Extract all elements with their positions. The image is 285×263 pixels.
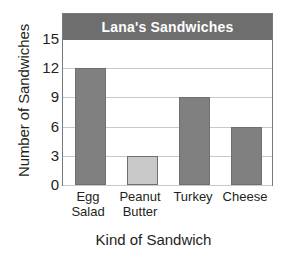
bar <box>127 156 158 185</box>
bar <box>179 97 210 185</box>
chart-title: Lana's Sandwiches <box>63 14 272 40</box>
plot-area: Lana's Sandwiches <box>62 13 273 186</box>
x-axis-tick-label: Cheese <box>219 189 271 204</box>
x-axis-tick-label: EggSalad <box>62 189 114 219</box>
bar-chart: Number of Sandwiches 03691215 Lana's San… <box>0 0 285 263</box>
x-axis-title: Kind of Sandwich <box>0 231 285 248</box>
y-axis-tick-labels: 03691215 <box>33 13 59 186</box>
bar <box>75 68 106 185</box>
x-axis-tick-label: Turkey <box>167 189 219 204</box>
x-axis-tick-label-line: Egg <box>62 189 114 204</box>
y-axis-tick-label: 12 <box>33 60 59 75</box>
x-axis-tick-label-line: Butter <box>114 204 166 219</box>
gridline <box>63 185 272 186</box>
y-axis-tick-label: 3 <box>33 148 59 163</box>
y-axis-tick-label: 9 <box>33 89 59 104</box>
bar <box>231 127 262 185</box>
x-axis-tick-labels: EggSaladPeanutButterTurkeyCheese <box>62 189 273 225</box>
y-axis-title: Number of Sandwiches <box>15 11 32 191</box>
x-axis-tick-label-line: Turkey <box>167 189 219 204</box>
y-axis-tick-label: 0 <box>33 177 59 192</box>
x-axis-tick-label-line: Cheese <box>219 189 271 204</box>
y-axis-tick-label: 6 <box>33 119 59 134</box>
y-axis-tick-label: 15 <box>33 31 59 46</box>
x-axis-tick-label-line: Salad <box>62 204 114 219</box>
x-axis-tick-label: PeanutButter <box>114 189 166 219</box>
x-axis-tick-label-line: Peanut <box>114 189 166 204</box>
